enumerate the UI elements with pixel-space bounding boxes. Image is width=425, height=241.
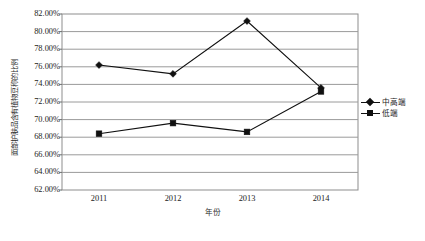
x-axis-tick-label: 2013: [223, 195, 271, 203]
data-point-marker: [244, 129, 250, 135]
legend-entry[interactable]: 中高端: [361, 97, 423, 108]
legend-label: 低端: [380, 110, 398, 118]
diamond-marker-icon: [361, 98, 380, 107]
data-point-marker: [318, 89, 324, 95]
x-axis-title: 年份: [0, 209, 425, 217]
data-point-marker: [96, 131, 102, 137]
x-axis-tick-label: 2012: [149, 195, 197, 203]
chart-legend: 中高端低端: [361, 97, 423, 119]
legend-label: 中高端: [380, 99, 406, 107]
legend-marker: [367, 110, 373, 116]
legend-marker: [366, 98, 374, 106]
x-axis-tick-labels: 2011201220132014: [62, 195, 358, 209]
x-axis-tick-label: 2014: [297, 195, 345, 203]
chart-figure: 面部护肤品含有植物豆称的比例 82.00%80.00%78.00%76.00%7…: [0, 0, 425, 241]
legend-entry[interactable]: 低端: [361, 108, 423, 119]
x-axis-tick-label: 2011: [75, 195, 123, 203]
square-marker-icon: [361, 109, 380, 118]
data-point-marker: [170, 120, 176, 126]
